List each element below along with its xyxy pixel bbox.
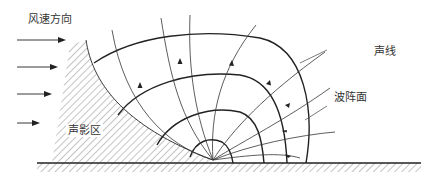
ray-3 (190, 15, 213, 160)
wind-arrows (17, 40, 64, 123)
shadow-zone-label: 声影区 (66, 124, 103, 137)
wind-direction-label: 风速方向 (28, 14, 72, 25)
sound-ray-label: 声线 (374, 46, 396, 57)
shadow-zone-region (52, 40, 213, 163)
ground (37, 163, 421, 172)
ray-6 (213, 88, 330, 160)
sound-propagation-diagram (0, 0, 437, 189)
ray-4 (212, 25, 256, 160)
wavefront-label: 波阵面 (334, 92, 367, 103)
